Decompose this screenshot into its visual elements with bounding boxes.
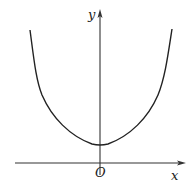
y-axis-label: y <box>87 7 96 22</box>
origin-label: O <box>95 165 106 180</box>
curve <box>30 29 172 145</box>
x-axis-label: x <box>171 168 179 183</box>
function-graph: y O x <box>0 0 196 190</box>
